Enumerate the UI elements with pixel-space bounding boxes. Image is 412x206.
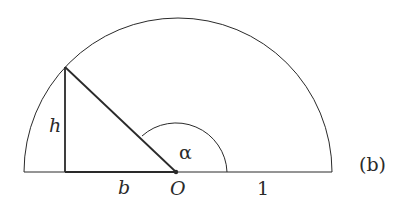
hypotenuse-line [65, 67, 176, 172]
origin-label: O [170, 177, 186, 199]
radius-label: 1 [257, 177, 269, 199]
height-label: h [49, 114, 61, 136]
diagram-svg: h b O 1 α (b) [0, 0, 412, 206]
origin-point [174, 170, 178, 174]
angle-label: α [179, 141, 192, 163]
base-label: b [118, 176, 130, 198]
semicircle-diagram: h b O 1 α (b) [0, 0, 412, 206]
unit-semicircle-arc [24, 18, 332, 172]
figure-caption: (b) [359, 153, 386, 175]
